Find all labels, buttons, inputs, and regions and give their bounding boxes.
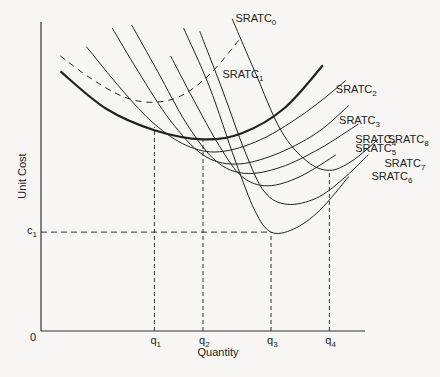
x-tick-label-q1: q1 xyxy=(150,334,161,349)
curve-label-sratc-6: SRATC6 xyxy=(371,170,412,185)
curve-label-sratc-3: SRATC3 xyxy=(339,114,380,129)
sratc-curves xyxy=(60,19,378,234)
x-tick-label-q3: q3 xyxy=(267,334,278,349)
x-axis-title: Quantity xyxy=(198,346,239,358)
y-axis-title: Unit Cost xyxy=(16,153,28,198)
curve-label-sratc-1: SRATC1 xyxy=(222,68,263,83)
origin-label: 0 xyxy=(30,331,36,343)
curve-sratc-2 xyxy=(86,47,345,152)
curve-label-sratc-2: SRATC2 xyxy=(336,83,377,98)
tick-labels: q1q2q3q4c1 xyxy=(27,224,336,349)
curve-sratc-6 xyxy=(184,28,349,233)
labels: 0 Quantity Unit Cost xyxy=(16,153,239,358)
x-tick-label-q4: q4 xyxy=(325,334,336,349)
curve-sratc-1 xyxy=(60,65,323,139)
curve-label-sratc-0: SRATC0 xyxy=(235,12,276,27)
curve-sratc-3 xyxy=(112,28,348,164)
curve-labels: SRATC0SRATC1SRATC2SRATC3SRATC4SRATC5SRAT… xyxy=(222,12,429,185)
reference-lines xyxy=(41,127,329,331)
y-tick-label-c1: c1 xyxy=(27,224,38,239)
cost-curves-chart: 0 Quantity Unit Cost q1q2q3q4c1 SRATC0SR… xyxy=(0,0,440,377)
